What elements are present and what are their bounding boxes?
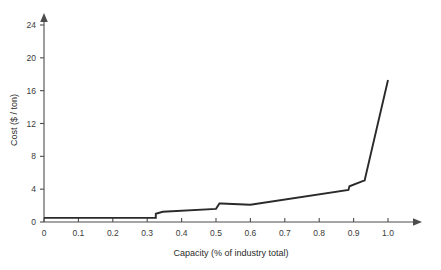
y-tick-label: 8 <box>31 151 36 161</box>
x-tick-label: 0.6 <box>244 228 256 238</box>
y-tick-label: 24 <box>27 20 37 30</box>
x-tick-label: 0.8 <box>313 228 325 238</box>
y-axis: 04812162024 Cost ($ / ton) <box>9 13 48 227</box>
supply-curve-chart: 04812162024 Cost ($ / ton) 00.10.20.30.4… <box>0 0 441 270</box>
x-tick-label: 0.9 <box>348 228 360 238</box>
x-tick-label: 1.0 <box>382 228 394 238</box>
data-series-group <box>44 80 388 218</box>
x-tick-label: 0.1 <box>72 228 84 238</box>
y-axis-arrow-icon <box>40 13 48 22</box>
y-tick-label: 4 <box>31 184 36 194</box>
y-axis-title: Cost ($ / ton) <box>9 94 19 146</box>
x-tick-label: 0.4 <box>176 228 188 238</box>
x-tick-label: 0.5 <box>210 228 222 238</box>
x-tick-label: 0 <box>42 228 47 238</box>
x-tick-label: 0.2 <box>107 228 119 238</box>
y-tick-label: 20 <box>27 53 37 63</box>
x-axis: 00.10.20.30.40.50.60.70.80.91.0 Capacity… <box>42 218 422 258</box>
x-tick-label-group: 00.10.20.30.40.50.60.70.80.91.0 <box>42 228 395 238</box>
x-tick-label: 0.3 <box>141 228 153 238</box>
chart-figure: 04812162024 Cost ($ / ton) 00.10.20.30.4… <box>0 0 441 270</box>
y-tick-label-group: 04812162024 <box>27 20 37 227</box>
y-tick-label: 16 <box>27 86 37 96</box>
y-tick-label: 12 <box>27 119 37 129</box>
x-tick-label: 0.7 <box>279 228 291 238</box>
x-axis-arrow-icon <box>413 218 422 226</box>
data-line-series <box>44 80 388 218</box>
y-tick-label: 0 <box>31 217 36 227</box>
x-axis-title: Capacity (% of industry total) <box>173 248 288 258</box>
y-tick-group <box>40 25 44 222</box>
